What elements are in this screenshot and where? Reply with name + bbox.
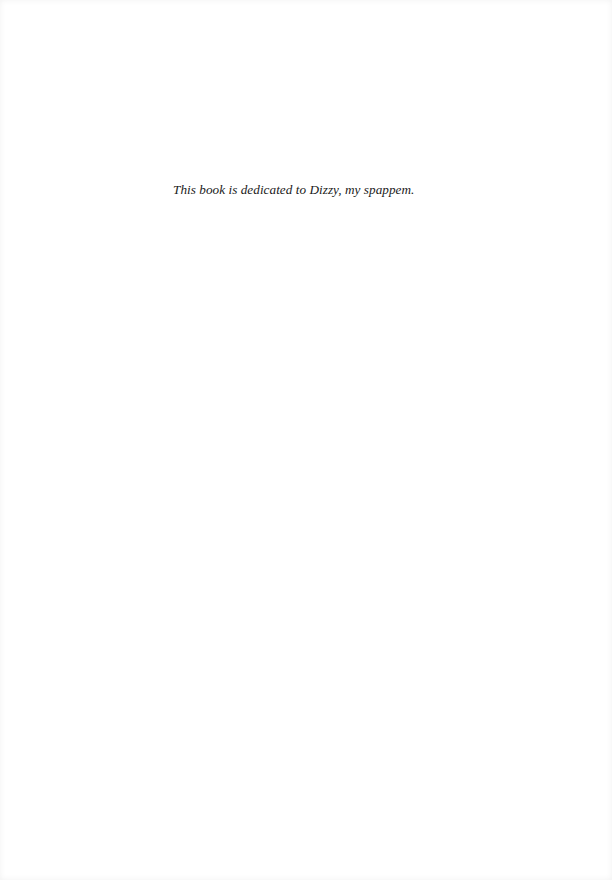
book-page: This book is dedicated to Dizzy, my spap… xyxy=(0,0,612,880)
dedication-text: This book is dedicated to Dizzy, my spap… xyxy=(173,182,414,198)
